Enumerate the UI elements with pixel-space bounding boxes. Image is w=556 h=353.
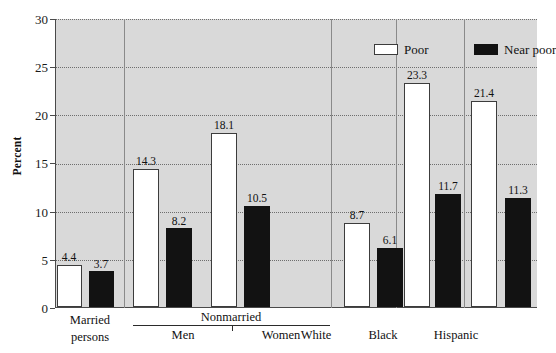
y-tick-label-10: 10 (8, 206, 48, 219)
bar-poor-married-persons (57, 265, 82, 307)
bar-poor-men (133, 169, 159, 307)
value-label-poor-women: 18.1 (204, 119, 244, 131)
bar-near-poor-men (166, 228, 192, 307)
bar-chart: 30 25 20 15 10 5 0 Percent (0, 0, 556, 353)
x-label-nonmarried-bracket: Nonmarried (181, 310, 281, 324)
bar-poor-black (404, 83, 430, 307)
bar-near-poor-white (377, 248, 403, 307)
y-tick-label-5: 5 (8, 254, 48, 267)
y-tick-label-0: 0 (8, 302, 48, 315)
bar-poor-women (211, 133, 237, 307)
bar-near-poor-hispanic (505, 198, 531, 307)
group-separator-2 (331, 19, 332, 308)
bar-near-poor-black (435, 194, 461, 307)
value-label-near-poor-white: 6.1 (370, 234, 410, 246)
legend-label-near-poor: Near poor (504, 43, 556, 56)
value-label-near-poor-married-persons: 3.7 (81, 258, 121, 270)
x-label-married-persons-line1: Married (50, 313, 130, 327)
bar-poor-hispanic (471, 101, 497, 307)
chart-legend: Poor Near poor (374, 43, 544, 59)
y-tick-label-30: 30 (8, 13, 48, 26)
legend-item-near-poor: Near poor (474, 43, 556, 56)
value-label-near-poor-women: 10.5 (237, 192, 277, 204)
group-separator-1 (124, 19, 125, 308)
value-label-poor-black: 23.3 (397, 69, 437, 81)
value-label-near-poor-black: 11.7 (428, 180, 468, 192)
legend-swatch-near-poor-icon (474, 44, 498, 55)
value-label-near-poor-hispanic: 11.3 (498, 184, 538, 196)
group-separator-4 (464, 19, 465, 308)
plot-area: 4.4 3.7 14.3 8.2 18.1 10.5 8.7 6.1 23.3 … (55, 19, 537, 308)
bar-poor-white (344, 223, 370, 307)
y-axis-title: Percent (11, 121, 23, 191)
legend-label-poor: Poor (404, 43, 429, 56)
bar-near-poor-women (244, 206, 270, 307)
value-label-poor-hispanic: 21.4 (464, 87, 504, 99)
y-tick-label-25: 25 (8, 61, 48, 74)
y-axis: 30 25 20 15 10 5 0 (0, 0, 48, 353)
bracket-tick-nonmarried-mid (232, 325, 233, 331)
x-label-hispanic: Hispanic (411, 328, 501, 342)
bar-near-poor-married-persons (89, 271, 114, 307)
y-tick-mark-0 (50, 308, 55, 309)
x-label-men: Men (143, 328, 223, 342)
value-label-near-poor-men: 8.2 (159, 215, 199, 227)
legend-swatch-poor-icon (374, 44, 398, 55)
legend-item-poor: Poor (374, 43, 429, 56)
value-label-poor-men: 14.3 (126, 155, 166, 167)
x-label-married-persons-line2: persons (50, 330, 130, 344)
value-label-poor-white: 8.7 (337, 209, 377, 221)
